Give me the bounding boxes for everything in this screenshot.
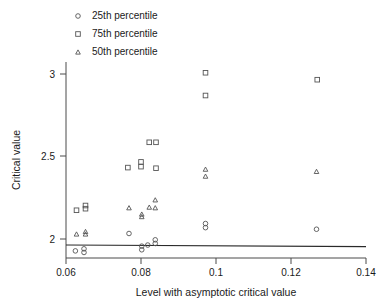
x-tick-label-0-06: 0.06 bbox=[56, 267, 76, 278]
data-point-2-11 bbox=[314, 169, 319, 173]
x-axis-ticks bbox=[66, 258, 366, 264]
y-tick-label-2-5: 2.5 bbox=[41, 151, 55, 162]
plot-canvas: 3 2.5 2 0.06 0.08 0.1 0.12 0.14 Level wi… bbox=[0, 0, 389, 305]
data-point-1-2 bbox=[83, 206, 88, 211]
data-point-1-3 bbox=[126, 165, 131, 170]
legend-label-1: 75th percentile bbox=[92, 28, 158, 39]
legend-marker-0 bbox=[76, 14, 81, 19]
data-point-1-4 bbox=[139, 160, 144, 165]
series-square bbox=[74, 70, 319, 212]
y-axis-ticks bbox=[60, 74, 66, 239]
y-axis-title: Critical value bbox=[10, 130, 22, 190]
x-tick-label-0-08: 0.08 bbox=[131, 267, 151, 278]
data-point-2-10 bbox=[203, 174, 208, 178]
data-point-1-10 bbox=[203, 93, 208, 98]
data-point-2-3 bbox=[127, 206, 132, 210]
x-tick-label-0-14: 0.14 bbox=[356, 267, 376, 278]
series-triangle bbox=[74, 167, 319, 236]
chart-legend: 25th percentile75th percentile50th perce… bbox=[76, 10, 158, 57]
data-point-0-11 bbox=[314, 227, 319, 232]
data-point-1-1 bbox=[83, 203, 88, 208]
y-tick-label-2: 2 bbox=[49, 234, 55, 245]
data-point-2-6 bbox=[147, 205, 152, 209]
series-circle bbox=[73, 221, 319, 255]
data-point-2-0 bbox=[74, 232, 79, 236]
x-axis-title: Level with asymptotic critical value bbox=[136, 286, 297, 298]
asymptotic-reference-line bbox=[66, 245, 366, 247]
data-point-1-7 bbox=[154, 140, 159, 145]
data-point-2-9 bbox=[203, 167, 208, 171]
scatter-plot-figure: 3 2.5 2 0.06 0.08 0.1 0.12 0.14 Level wi… bbox=[0, 0, 389, 305]
data-point-0-0 bbox=[73, 249, 78, 254]
x-tick-label-0-12: 0.12 bbox=[281, 267, 301, 278]
x-tick-label-0-1: 0.1 bbox=[209, 267, 223, 278]
data-point-1-0 bbox=[74, 208, 79, 213]
legend-label-2: 50th percentile bbox=[92, 46, 158, 57]
data-point-1-11 bbox=[315, 77, 320, 82]
data-markers-layer bbox=[73, 70, 319, 254]
data-point-2-8 bbox=[153, 206, 158, 210]
data-point-1-6 bbox=[147, 140, 152, 145]
data-point-1-5 bbox=[139, 164, 144, 169]
data-point-1-9 bbox=[203, 70, 208, 75]
y-tick-label-3: 3 bbox=[49, 69, 55, 80]
legend-label-0: 25th percentile bbox=[92, 10, 158, 21]
data-point-0-3 bbox=[127, 231, 132, 236]
legend-marker-2 bbox=[76, 50, 81, 54]
data-point-2-7 bbox=[153, 198, 158, 202]
data-point-1-8 bbox=[154, 166, 159, 171]
legend-marker-1 bbox=[76, 32, 81, 37]
